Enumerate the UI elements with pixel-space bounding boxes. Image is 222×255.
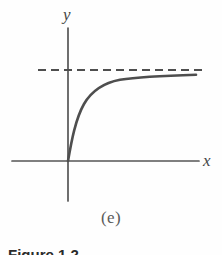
figure-caption-clipped: Figure 1.2 — [8, 247, 214, 255]
x-axis-label: x — [203, 152, 211, 169]
panel-label-e: (e) — [0, 208, 222, 228]
curve-path — [68, 75, 196, 161]
figure-panel-e: y x (e) Figure 1.2 — [0, 0, 222, 255]
y-axis-label: y — [63, 6, 71, 23]
